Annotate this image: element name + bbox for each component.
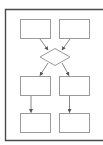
edge-decision-to-mid-right: [62, 63, 69, 76]
box-bottom-right: [60, 114, 90, 133]
decision-diamond: [40, 49, 70, 66]
box-bottom-left: [21, 114, 51, 133]
edge-decision-to-mid-left: [40, 63, 48, 76]
box-mid-right: [60, 77, 90, 96]
edge-top-left-to-decision: [40, 39, 48, 50]
box-top-left: [21, 20, 51, 39]
box-top-right: [60, 20, 90, 39]
flowchart-diagram: [0, 0, 103, 145]
box-mid-left: [21, 77, 51, 96]
edge-top-right-to-decision: [62, 39, 70, 50]
